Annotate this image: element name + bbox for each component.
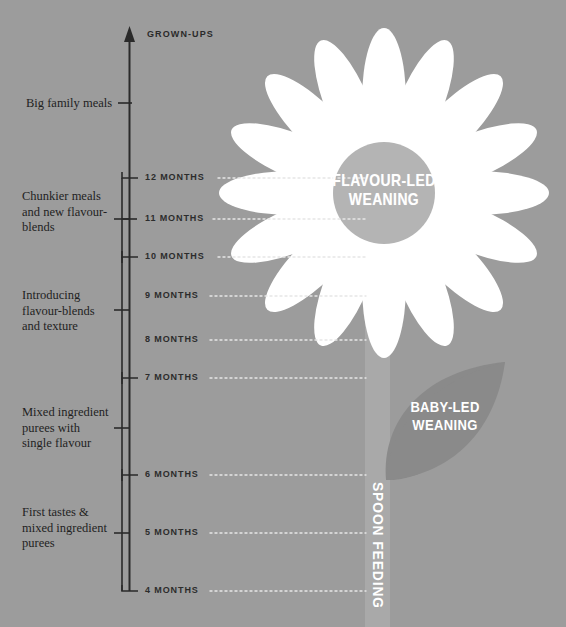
month-label-10: 10 MONTHS — [145, 252, 205, 261]
flavour-led-weaning-line1: FLAVOUR-LED — [328, 171, 440, 190]
axis-line-group — [124, 26, 135, 591]
axis-arrow-head — [124, 26, 135, 42]
month-label-6: 6 MONTHS — [145, 470, 199, 479]
month-label-7: 7 MONTHS — [145, 373, 199, 382]
month-label-8: 8 MONTHS — [145, 335, 199, 344]
axis-top-label: GROWN-UPS — [147, 30, 214, 39]
baby-led-weaning-label: BABY-LED WEANING — [399, 398, 491, 434]
baby-led-weaning-line1: BABY-LED — [399, 398, 491, 416]
month-label-4: 4 MONTHS — [145, 586, 199, 595]
stage-label-introducing-flavour-blends: Introducing flavour-blends and texture — [22, 288, 117, 335]
flavour-led-weaning-label: FLAVOUR-LED WEANING — [328, 171, 440, 209]
stage-label-big-family-meals: Big family meals — [26, 96, 116, 112]
baby-led-weaning-line2: WEANING — [399, 416, 491, 434]
stage-label-chunkier-meals: Chunkier meals and new flavour- blends — [22, 189, 117, 236]
spoon-feeding-label: SPOON FEEDING — [370, 482, 387, 609]
flavour-led-weaning-line2: WEANING — [328, 190, 440, 209]
stage-label-first-tastes: First tastes & mixed ingredient purees — [22, 505, 122, 552]
leader-lines — [210, 178, 366, 591]
month-label-12: 12 MONTHS — [145, 173, 205, 182]
weaning-timeline-infographic: GROWN-UPS 12 MONTHS 11 MONTHS 10 MONTHS … — [0, 0, 566, 627]
month-label-11: 11 MONTHS — [145, 214, 204, 223]
month-label-9: 9 MONTHS — [145, 291, 199, 300]
month-label-5: 5 MONTHS — [145, 528, 199, 537]
stage-label-mixed-ingredient-purees: Mixed ingredient purees with single flav… — [22, 405, 122, 452]
